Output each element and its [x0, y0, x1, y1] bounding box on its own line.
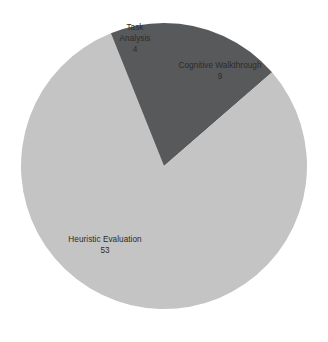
pie-label-task-analysis: Task Analysis 4	[104, 22, 166, 55]
pie-label-cognitive-walkthrough-name: Cognitive Walkthrough	[166, 60, 274, 71]
pie-chart: Task Analysis 4 Cognitive Walkthrough 9 …	[0, 0, 328, 342]
pie-label-task-analysis-value: 4	[104, 44, 166, 55]
pie-label-heuristic-evaluation: Heuristic Evaluation 53	[49, 234, 161, 256]
pie-label-cognitive-walkthrough: Cognitive Walkthrough 9	[166, 60, 274, 82]
pie-label-cognitive-walkthrough-value: 9	[166, 71, 274, 82]
pie-label-heuristic-evaluation-value: 53	[49, 245, 161, 256]
pie-label-heuristic-evaluation-name: Heuristic Evaluation	[49, 234, 161, 245]
pie-label-task-analysis-name: Task Analysis	[115, 22, 155, 44]
